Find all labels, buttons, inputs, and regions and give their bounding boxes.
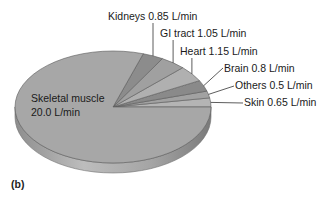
label-skeletal-muscle-value: 20.0 L/min xyxy=(31,106,80,118)
panel-label: (b) xyxy=(11,178,24,190)
leader-line xyxy=(209,86,235,94)
label-skeletal-muscle: Skeletal muscle xyxy=(31,92,105,104)
leader-line xyxy=(211,102,243,103)
leader-line xyxy=(204,68,223,86)
label-skin: Skin 0.65 L/min xyxy=(244,96,317,108)
pie-chart: Kidneys 0.85 L/min GI tract 1.05 L/min H… xyxy=(0,0,327,204)
label-heart: Heart 1.15 L/min xyxy=(180,45,258,57)
label-gi-tract: GI tract 1.05 L/min xyxy=(160,27,247,39)
label-brain: Brain 0.8 L/min xyxy=(224,62,295,74)
label-kidneys: Kidneys 0.85 L/min xyxy=(108,10,197,22)
label-others: Others 0.5 L/min xyxy=(235,79,313,91)
